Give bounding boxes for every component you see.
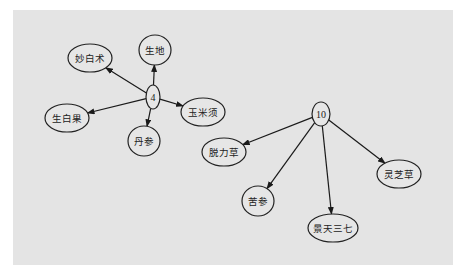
node-chao-bai-zhu[interactable]: 妙白术 <box>68 44 112 72</box>
node-label: 玉米须 <box>188 107 218 118</box>
node-label: 妙白术 <box>75 53 105 64</box>
node-label: 4 <box>151 92 156 103</box>
node-label: 生地 <box>145 45 165 56</box>
node-label: 苦参 <box>248 196 268 207</box>
node-tuo-li-cao[interactable]: 脱力草 <box>202 138 246 166</box>
node-label: 景天三七 <box>313 223 353 234</box>
node-dan-shen[interactable]: 丹参 <box>128 126 160 156</box>
node-sheng-bai-guo[interactable]: 生白果 <box>45 104 89 132</box>
node-label: 生白果 <box>52 113 82 124</box>
node-sheng-di[interactable]: 生地 <box>139 35 171 65</box>
node-label: 灵芝草 <box>384 169 414 180</box>
node-label: 丹参 <box>134 136 154 147</box>
node-ling-zhi-cao[interactable]: 灵芝草 <box>377 160 421 188</box>
node-yu-mi-xu[interactable]: 玉米须 <box>181 98 225 126</box>
graph-canvas: 4妙白术生地玉米须生白果丹参10脱力草苦参景天三七灵芝草 <box>0 0 465 275</box>
node-ku-shen[interactable]: 苦参 <box>242 186 274 216</box>
node-n10[interactable]: 10 <box>312 102 330 126</box>
node-n4[interactable]: 4 <box>146 85 160 109</box>
node-jing-tian-san-qi[interactable]: 景天三七 <box>308 214 358 242</box>
node-label: 脱力草 <box>209 147 239 158</box>
node-label: 10 <box>316 109 326 120</box>
